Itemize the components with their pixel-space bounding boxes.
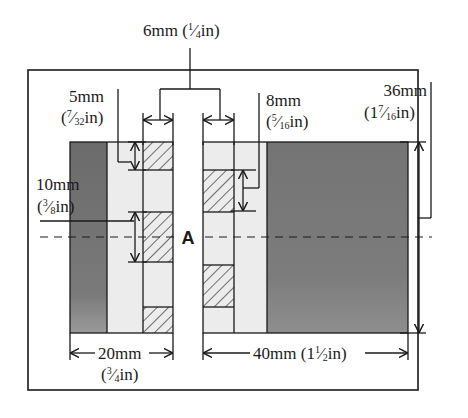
left-hatch-1 [143, 142, 173, 170]
height-label: 36mm [384, 81, 427, 100]
right-width-label: 40mm (11⁄2in) [253, 344, 347, 363]
slot-width-label: 6mm (1⁄4in) [143, 21, 220, 40]
slot-width-dimension [143, 48, 234, 145]
joint-diagram: A 6mm (1⁄4in) 5mm (7⁄32in) 8mm (5⁄1 [0, 0, 468, 418]
section-label-a: A [182, 228, 195, 248]
left-hatch-3 [143, 307, 173, 333]
right-hatch-2 [203, 265, 234, 307]
left-step-label: 5mm (7⁄32in) [61, 87, 108, 127]
left-width-label: 20mm (3⁄4in) [98, 344, 146, 384]
right-hatch-1 [203, 170, 234, 212]
height-imperial-label: (17⁄16in) [364, 103, 415, 122]
right-step-label: 8mm (5⁄16in) [266, 91, 308, 131]
